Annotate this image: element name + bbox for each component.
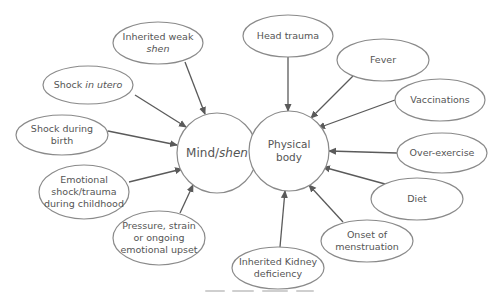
label-text: Inherited Kidney xyxy=(239,256,318,267)
arrow-over-exercise-to-body xyxy=(329,151,397,153)
arrow-shock-during-birth-to-mind xyxy=(108,131,177,145)
cause-node-emotional-shock-childhood: Emotionalshock/traumaduring childhood xyxy=(39,165,129,219)
italic-text: in utero xyxy=(85,79,122,90)
label-text: deficiency xyxy=(254,268,303,279)
label-text: Over-exercise xyxy=(410,147,475,158)
cause-node-onset-of-menstruation: Onset ofmenstruation xyxy=(321,220,413,262)
arrow-inherited-kidney-deficiency-to-body xyxy=(280,191,285,247)
node-label: Diet xyxy=(407,193,427,204)
label-text: Head trauma xyxy=(257,30,319,41)
cause-node-diet: Diet xyxy=(371,178,463,220)
label-text: emotional upset xyxy=(120,244,197,255)
label-text: Diet xyxy=(407,193,427,204)
arrow-shock-in-utero-to-mind xyxy=(135,95,186,127)
label-text: Shock xyxy=(54,79,86,90)
center-node-body: Physicalbody xyxy=(249,111,329,191)
arrow-vaccinations-to-body xyxy=(318,100,395,128)
cause-node-inherited-weak-shen: Inherited weakshen xyxy=(113,22,203,64)
label-text: birth xyxy=(51,135,73,146)
label-text: Inherited weak xyxy=(123,31,194,42)
center-node-mind: Mind/shen xyxy=(177,113,257,193)
label-text: Vaccinations xyxy=(410,94,470,105)
cause-node-pressure-strain-upset: Pressure, strainor ongoingemotional upse… xyxy=(113,211,205,265)
label-text: Fever xyxy=(370,54,396,65)
node-label: Mind/shen xyxy=(186,146,248,160)
arrow-inherited-weak-shen-to-mind xyxy=(185,62,205,114)
label-text: Physical xyxy=(268,138,311,150)
cause-node-shock-in-utero: Shock in utero xyxy=(43,66,133,104)
figure-caption xyxy=(205,290,314,292)
label-text: or ongoing xyxy=(133,232,184,243)
node-layer: Inherited weakshenShock in uteroShock du… xyxy=(16,15,487,289)
cause-node-vaccinations: Vaccinations xyxy=(395,79,485,121)
cause-node-shock-during-birth: Shock duringbirth xyxy=(16,115,108,155)
cause-node-over-exercise: Over-exercise xyxy=(397,133,487,173)
label-text: Mind/ xyxy=(186,146,220,160)
node-label: Head trauma xyxy=(257,30,319,41)
node-label: Over-exercise xyxy=(410,147,475,158)
label-text: Shock during xyxy=(31,123,93,134)
label-text: body xyxy=(276,151,302,163)
italic-text: shen xyxy=(147,43,170,54)
arrow-pressure-strain-upset-to-mind xyxy=(180,185,193,213)
node-label: Shock in utero xyxy=(54,79,123,90)
cause-node-head-trauma: Head trauma xyxy=(243,15,333,57)
label-text: during childhood xyxy=(44,198,124,209)
node-label: Vaccinations xyxy=(410,94,470,105)
arrow-emotional-shock-childhood-to-mind xyxy=(129,169,182,182)
arrow-onset-of-menstruation-to-body xyxy=(309,185,343,222)
label-text: Pressure, strain xyxy=(122,220,196,231)
label-text: Onset of xyxy=(347,229,388,240)
label-text: shock/trauma xyxy=(51,186,116,197)
italic-text: shen xyxy=(219,146,248,160)
label-text: menstruation xyxy=(335,241,399,252)
cause-node-inherited-kidney-deficiency: Inherited Kidneydeficiency xyxy=(232,247,324,289)
node-label: Fever xyxy=(370,54,396,65)
causes-diagram: Inherited weakshenShock in uteroShock du… xyxy=(0,0,504,296)
arrow-fever-to-body xyxy=(311,76,353,118)
arrow-diet-to-body xyxy=(323,167,385,184)
label-text: Emotional xyxy=(60,174,108,185)
cause-node-fever: Fever xyxy=(337,39,429,81)
